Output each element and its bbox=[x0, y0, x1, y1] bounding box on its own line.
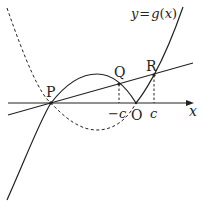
curve-label-rparen: ) bbox=[172, 6, 177, 21]
diagram-canvas bbox=[0, 0, 204, 204]
label-Q: Q bbox=[114, 65, 125, 79]
curve-label-g: g bbox=[151, 6, 159, 21]
point-O bbox=[135, 102, 137, 104]
point-Q bbox=[117, 82, 120, 85]
diagram: y=g(x) P Q R O −c c x bbox=[0, 0, 204, 204]
tick-c: c bbox=[150, 107, 157, 120]
curve-label: y=g(x) bbox=[131, 7, 177, 20]
curve-label-x: x bbox=[165, 6, 172, 21]
curve-label-eq: = bbox=[139, 6, 150, 21]
label-P: P bbox=[46, 85, 55, 99]
line-through-PQR bbox=[8, 63, 193, 115]
point-P bbox=[49, 101, 53, 105]
label-O: O bbox=[131, 108, 142, 122]
label-R: R bbox=[146, 59, 157, 73]
curve-label-y: y bbox=[131, 6, 138, 21]
tick-neg-c: −c bbox=[108, 107, 126, 120]
x-axis-label: x bbox=[189, 104, 197, 118]
